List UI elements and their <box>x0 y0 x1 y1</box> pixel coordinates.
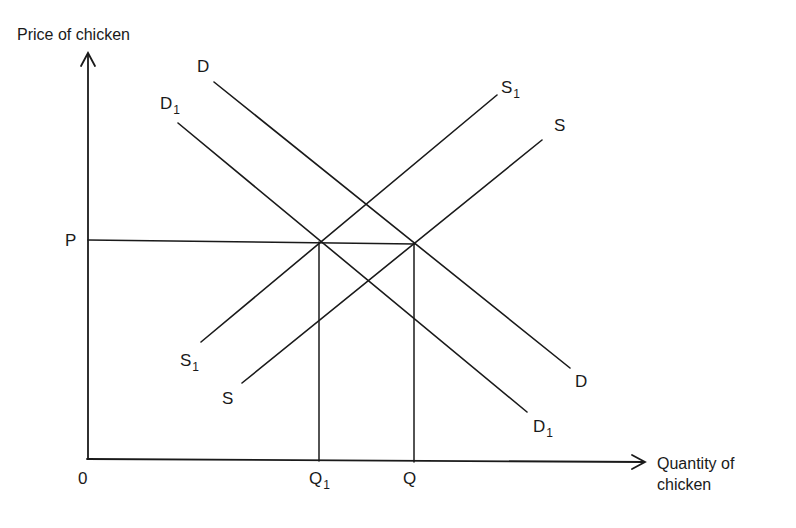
curve-label-d1-top-sub: 1 <box>173 103 180 117</box>
curve-label-d1-top: D1 <box>160 95 180 116</box>
price-line-p <box>88 240 415 244</box>
y-axis-title: Price of chicken <box>17 24 130 45</box>
quantity-label-q: Q <box>403 470 416 487</box>
curve-label-s1-bottom-sub: 1 <box>192 360 199 374</box>
curve-label-d-top: D <box>197 58 209 75</box>
curve-label-s1-bottom-main: S <box>180 351 191 370</box>
curve-label-d-bottom: D <box>575 373 587 390</box>
demand-curve-d1 <box>178 123 527 412</box>
supply-demand-diagram <box>0 0 796 528</box>
curve-label-s-top: S <box>554 117 565 134</box>
curve-label-d1-bottom: D1 <box>533 418 553 439</box>
supply-curve-s1 <box>201 95 497 342</box>
origin-label: 0 <box>78 470 87 487</box>
curve-label-s1-top-sub: 1 <box>513 87 520 101</box>
supply-curve-s <box>242 140 542 383</box>
curve-label-s1-bottom: S1 <box>180 352 199 373</box>
quantity-label-q1-sub: 1 <box>323 478 330 492</box>
x-axis-title-line2: chicken <box>657 474 734 495</box>
curve-label-s-bottom: S <box>222 390 233 407</box>
quantity-label-q1-main: Q <box>309 469 322 488</box>
x-axis-title-line1: Quantity of <box>657 453 734 474</box>
demand-curve-d <box>214 82 570 368</box>
x-axis-title: Quantity of chicken <box>657 453 734 495</box>
curve-label-d1-top-main: D <box>160 94 172 113</box>
curve-label-s1-top-main: S <box>501 78 512 97</box>
curve-label-d1-bottom-main: D <box>533 417 545 436</box>
price-label-p: P <box>65 232 76 249</box>
curve-label-s1-top: S1 <box>501 79 520 100</box>
curve-label-d1-bottom-sub: 1 <box>546 426 553 440</box>
x-axis <box>87 459 644 462</box>
quantity-label-q1: Q1 <box>309 470 330 491</box>
